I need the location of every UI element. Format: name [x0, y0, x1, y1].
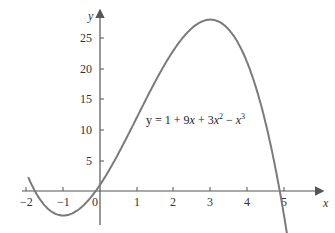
x-tick-label: 1 — [134, 195, 140, 209]
x-tick-label: 2 — [170, 195, 176, 209]
x-tick-label: −2 — [20, 195, 33, 209]
x-tick-label: 4 — [244, 195, 250, 209]
y-tick-label: 20 — [80, 62, 92, 76]
equation-prefix: y = 1 + 9 — [146, 113, 190, 127]
equation-mid: + 3 — [195, 113, 214, 127]
y-axis-label: y — [87, 9, 94, 23]
y-tick-label: 25 — [80, 31, 92, 45]
y-tick-label: 5 — [86, 154, 92, 168]
equation-minus: − — [223, 113, 236, 127]
x-tick-label: −1 — [57, 195, 70, 209]
y-tick-label: 10 — [80, 123, 92, 137]
x-tick-label: 3 — [207, 195, 213, 209]
x-tick-label: 0 — [92, 195, 98, 209]
y-tick-label: 15 — [80, 92, 92, 106]
equation-exponent: 3 — [241, 112, 245, 121]
x-ticks: −2 −1 0 1 2 3 4 5 — [20, 187, 287, 209]
x-axis-label: x — [322, 196, 329, 210]
equation-label: y = 1 + 9x + 3x2 − x3 — [146, 112, 245, 127]
function-plot: x y −2 −1 0 1 2 3 4 5 5 10 15 20 25 y = — [0, 0, 335, 233]
